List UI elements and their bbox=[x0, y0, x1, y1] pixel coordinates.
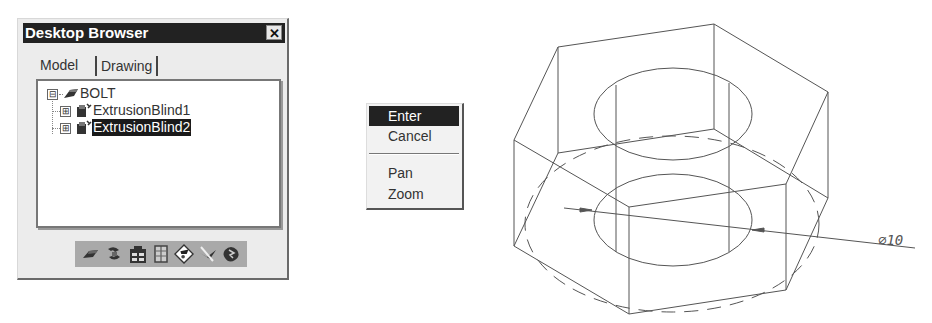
browser-toolbar bbox=[75, 241, 247, 267]
tree-item-label: ExtrusionBlind2 bbox=[92, 119, 191, 136]
tab-drawing[interactable]: Drawing bbox=[95, 56, 158, 76]
menu-item-pan[interactable]: Pan bbox=[369, 163, 459, 183]
menu-item-zoom[interactable]: Zoom bbox=[369, 184, 459, 204]
dimension-line bbox=[564, 208, 915, 248]
drawing-icon bbox=[174, 243, 194, 265]
desktop-browser-window: Desktop Browser ✕ Model Drawing ⊟ BOLT ⊞ bbox=[17, 18, 289, 280]
menu-item-cancel[interactable]: Cancel bbox=[369, 126, 459, 146]
drawing-button[interactable] bbox=[174, 244, 194, 264]
close-button[interactable]: ✕ bbox=[266, 25, 282, 40]
tree-item-label: ExtrusionBlind1 bbox=[92, 102, 191, 119]
chamfer-ellipse bbox=[525, 136, 819, 312]
part-button[interactable] bbox=[81, 244, 101, 264]
hex-nut-wireframe bbox=[514, 24, 915, 314]
sketch-button[interactable] bbox=[198, 244, 218, 264]
tab-model[interactable]: Model bbox=[36, 54, 82, 76]
extrusion-feature-icon bbox=[76, 120, 92, 135]
model-viewport[interactable]: ⌀10 bbox=[490, 0, 932, 323]
scene-icon bbox=[221, 244, 241, 264]
catalog-button[interactable] bbox=[128, 244, 148, 264]
model-tree[interactable]: ⊟ BOLT ⊞ ExtrusionBlind1 ⊞ bbox=[36, 79, 281, 228]
part-icon bbox=[82, 247, 100, 261]
context-menu: Enter Cancel Pan Zoom bbox=[366, 103, 464, 210]
close-icon: ✕ bbox=[269, 26, 280, 41]
menu-separator bbox=[369, 153, 459, 155]
catalog-icon bbox=[128, 244, 148, 264]
table-button[interactable] bbox=[151, 244, 171, 264]
expand-icon[interactable]: ⊞ bbox=[60, 106, 71, 117]
assembly-icon bbox=[105, 245, 123, 263]
scene-button[interactable] bbox=[221, 244, 241, 264]
table-icon bbox=[154, 245, 168, 263]
sketch-icon bbox=[198, 245, 218, 263]
assembly-button[interactable] bbox=[104, 244, 124, 264]
hole-top-ellipse bbox=[594, 68, 752, 160]
top-face-edge bbox=[514, 24, 828, 207]
extrusion-feature-icon bbox=[76, 103, 92, 118]
dimension-label[interactable]: ⌀10 bbox=[878, 232, 903, 248]
tree-item-label: BOLT bbox=[79, 85, 117, 102]
part-icon bbox=[63, 86, 79, 101]
menu-item-enter[interactable]: Enter bbox=[369, 106, 459, 126]
expand-icon[interactable]: ⊞ bbox=[60, 123, 71, 134]
window-title: Desktop Browser bbox=[25, 24, 148, 41]
collapse-icon[interactable]: ⊟ bbox=[47, 89, 58, 100]
window-titlebar[interactable]: Desktop Browser ✕ bbox=[23, 23, 285, 43]
